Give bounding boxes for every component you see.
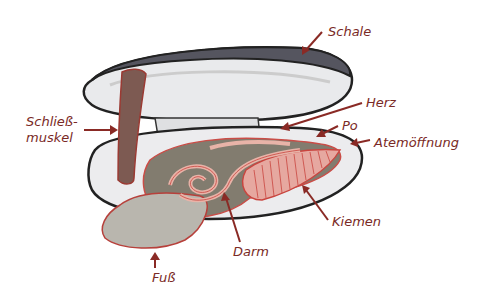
label-schliessmuskel-2: muskel [26,130,73,145]
label-fuss: Fuß [152,270,175,285]
label-atemoeffnung: Atemöffnung [373,135,459,150]
label-darm: Darm [233,244,269,259]
label-schliessmuskel-1: Schließ- [26,114,78,129]
mussel-diagram: Schale Herz Po Atemöffnung Schließ- musk… [0,0,488,306]
label-schale: Schale [328,24,371,39]
diagram-canvas: Schale Herz Po Atemöffnung Schließ- musk… [0,0,488,306]
arrow-schliessmuskel [84,125,118,135]
label-po: Po [342,118,358,133]
label-kiemen: Kiemen [332,214,381,229]
arrow-fuss [150,252,160,268]
label-herz: Herz [366,95,397,110]
